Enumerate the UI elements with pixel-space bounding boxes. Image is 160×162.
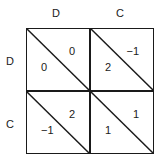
diagonal-divider	[91, 92, 153, 153]
cell-dd: 0 0	[26, 28, 90, 91]
column-payoff: 2	[69, 109, 75, 120]
cell-cd: 2 −1	[26, 91, 90, 154]
column-label-d: D	[52, 8, 60, 19]
row-label-c: C	[6, 119, 14, 130]
row-payoff: 1	[105, 125, 111, 136]
diagonal-divider	[27, 29, 89, 90]
row-payoff: −1	[41, 125, 54, 136]
diagonal-divider	[91, 29, 153, 90]
column-payoff: −1	[126, 46, 139, 57]
row-label-d: D	[6, 56, 14, 67]
row-payoff: 2	[105, 62, 111, 73]
cell-cc: 1 1	[90, 91, 154, 154]
column-payoff: 0	[69, 46, 75, 57]
column-label-c: C	[116, 8, 124, 19]
diagonal-divider	[27, 92, 89, 153]
payoff-matrix: 0 0 −1 2 2 −1 1 1	[26, 28, 154, 155]
column-payoff: 1	[133, 109, 139, 120]
row-payoff: 0	[41, 62, 47, 73]
cell-dc: −1 2	[90, 28, 154, 91]
